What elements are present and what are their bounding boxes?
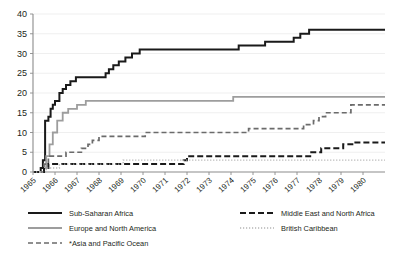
x-tick-label-1980: 1980 [349, 175, 369, 194]
legend-label-middle-east-north-africa: Middle East and North Africa [281, 209, 376, 218]
x-tick-label-1971: 1971 [151, 175, 171, 194]
gridlines-group [33, 14, 385, 152]
series-line-europe-and-north-america [33, 97, 385, 172]
x-tick-label-1976: 1976 [261, 175, 281, 194]
y-tick-label-40: 40 [17, 9, 27, 19]
series-line-british-caribbean [33, 160, 385, 172]
x-tick-label-1979: 1979 [327, 175, 347, 194]
legend-item-british-caribbean[interactable]: British Caribbean [240, 224, 338, 233]
line-chart: 0510152025303540 19651966196719681969197… [0, 0, 403, 263]
x-tick-label-1968: 1968 [85, 175, 105, 194]
x-tick-label-1972: 1972 [173, 175, 193, 194]
x-tick-label-1975: 1975 [239, 175, 259, 194]
y-tick-label-20: 20 [17, 88, 27, 98]
y-tick-label-25: 25 [17, 68, 27, 78]
legend-item-asia-pacific-ocean[interactable]: *Asia and Pacific Ocean [28, 239, 148, 248]
y-tick-label-15: 15 [17, 108, 27, 118]
legend-label-europe-north-america: Europe and North America [69, 224, 157, 233]
legend-item-europe-north-america[interactable]: Europe and North America [28, 224, 157, 233]
x-tick-label-1970: 1970 [129, 175, 149, 194]
chart-container: 0510152025303540 19651966196719681969197… [0, 0, 403, 263]
chart-legend: Sub-Saharan AfricaMiddle East and North … [28, 209, 376, 248]
series-line-middle-east-and-north-africa [33, 142, 385, 172]
legend-item-sub-saharan-africa[interactable]: Sub-Saharan Africa [28, 209, 134, 218]
legend-label-sub-saharan-africa: Sub-Saharan Africa [69, 209, 134, 218]
x-tick-label-1978: 1978 [305, 175, 325, 194]
x-tick-label-1973: 1973 [195, 175, 215, 194]
x-tick-label-1977: 1977 [283, 175, 303, 194]
series-line-asia-and-pacific-ocean [33, 105, 385, 172]
legend-label-asia-pacific-ocean: *Asia and Pacific Ocean [69, 239, 148, 248]
y-tick-label-5: 5 [22, 147, 27, 157]
y-tick-label-30: 30 [17, 49, 27, 59]
y-tick-label-35: 35 [17, 29, 27, 39]
y-tick-label-10: 10 [17, 128, 27, 138]
y-axis-ticks: 0510152025303540 [17, 9, 33, 177]
x-tick-label-1974: 1974 [217, 175, 237, 194]
x-tick-label-1966: 1966 [41, 175, 61, 194]
x-axis-ticks: 1965196619671968196919701971197219731974… [19, 172, 369, 194]
data-series-group [33, 30, 385, 172]
legend-label-british-caribbean: British Caribbean [281, 224, 338, 233]
y-tick-label-0: 0 [22, 167, 27, 177]
legend-item-middle-east-north-africa[interactable]: Middle East and North Africa [240, 209, 376, 218]
x-tick-label-1969: 1969 [107, 175, 127, 194]
x-tick-label-1967: 1967 [63, 175, 83, 194]
x-tick-label-1965: 1965 [19, 175, 39, 194]
